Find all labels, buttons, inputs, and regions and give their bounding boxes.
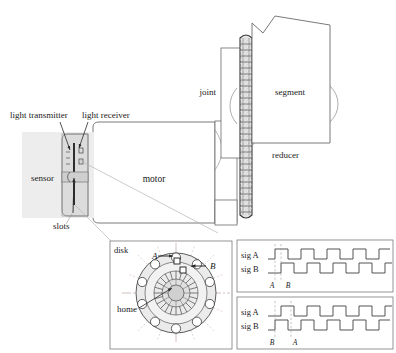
segment-label: segment <box>275 87 305 97</box>
track-b-label: B <box>210 261 216 271</box>
forward-marker-a-label: A <box>269 281 275 290</box>
disk-detail-panel: disk <box>110 241 232 349</box>
motor-housing <box>93 122 215 223</box>
track-b-marker <box>180 267 186 273</box>
motor-label: motor <box>143 174 167 184</box>
slots-label: slots <box>53 221 70 231</box>
reverse-marker-a-label: A <box>292 338 298 347</box>
forward-sigb-label: sig B <box>241 264 259 274</box>
sensor-assembly: sensor <box>22 132 94 218</box>
shaft-collar <box>62 172 88 182</box>
reverse-panel-frame <box>237 297 393 349</box>
forward-panel-frame <box>237 240 393 292</box>
segment-link: segment <box>252 16 338 143</box>
reducer-label: reducer <box>272 150 299 160</box>
gear-hatch <box>240 38 252 215</box>
forward-siga-label: sig A <box>241 250 260 260</box>
light-transmitter-label: light transmitter <box>10 110 68 120</box>
joint-label: joint <box>198 87 216 97</box>
track-a-label: A <box>151 251 158 261</box>
light-receiver-label: light receiver <box>82 110 130 120</box>
reverse-marker-b-label: B <box>270 338 275 347</box>
disk-hub <box>168 285 184 301</box>
motor-assembly: motor <box>93 122 215 223</box>
segment-outline <box>252 16 330 143</box>
sensor-label: sensor <box>31 173 54 183</box>
disk-label: disk <box>114 245 129 255</box>
reverse-siga-label: sig A <box>241 307 260 317</box>
track-a-marker <box>174 258 180 264</box>
waveform-panel-reverse: sig A sig B B A <box>237 297 393 349</box>
reducer-bottom-flange <box>215 200 237 225</box>
segment-end-arc <box>330 86 338 122</box>
reverse-sigb-label: sig B <box>241 321 259 331</box>
home-label: home <box>117 304 137 314</box>
reducer-gear-drum <box>240 35 252 218</box>
diagram-canvas: motor sensor light transmitter lig <box>0 0 396 353</box>
waveform-panel-forward: sig A sig B A B <box>237 240 393 292</box>
forward-marker-b-label: B <box>286 281 291 290</box>
